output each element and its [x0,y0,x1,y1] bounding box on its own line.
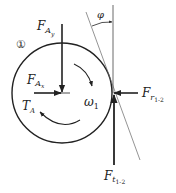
torque-TA-label: TA [22,99,35,115]
phi-angle-arc [92,22,112,26]
force-FAx-label: FAx [26,73,45,89]
torque-TA-arrow [40,112,80,125]
force-Ft-label: Ft1-2 [103,169,125,185]
omega-label: ω1 [84,95,99,111]
omega-rotation-arrow [74,64,92,86]
body-number-marker: ① [16,38,26,51]
phi-label: φ [97,9,104,20]
force-FAy-label: FAy [36,19,55,38]
force-Fr-label: Fr1-2 [141,86,164,103]
free-body-diagram: φ ① FAy FAx ω1 TA Fr1-2 Ft1-2 [0,0,176,193]
